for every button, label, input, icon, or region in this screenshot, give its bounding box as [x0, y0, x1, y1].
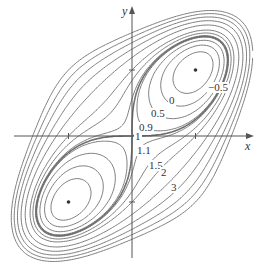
contour-level-label: 2: [160, 167, 168, 178]
contour-level-label: 3: [170, 182, 178, 193]
x-axis-label: x: [245, 140, 250, 152]
contour-level-label: 0: [168, 95, 176, 106]
contour-level-label: 1.1: [136, 145, 152, 156]
y-axis-label: y: [122, 5, 127, 17]
minimum-point: [67, 200, 71, 204]
contour-level-label: −0.5: [207, 82, 229, 93]
minimum-point: [194, 68, 198, 72]
contour-level-label: 1: [134, 131, 142, 142]
contour-plot: [0, 0, 261, 264]
y-axis-arrow-icon: [129, 6, 135, 14]
contour-level-label: 0.5: [150, 108, 166, 119]
